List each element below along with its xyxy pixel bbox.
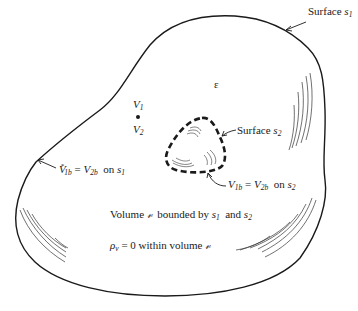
label-boundary-s2: V1b = V2b on s2 [228, 178, 295, 194]
permittivity-symbol: ε [214, 78, 219, 90]
label-surface-sub: 1 [349, 10, 353, 19]
label-surface-s1: Surface s1 [308, 5, 352, 21]
label-volume-statement: Volume 𝓋 bounded by s1 and s2 [110, 208, 252, 224]
charge-vol-symbol: 𝓋 [205, 239, 210, 251]
label-surface2-sub: 2 [278, 129, 282, 138]
vol-s2-sub: 2 [248, 213, 252, 222]
bs2-eq: = [242, 178, 254, 190]
bs1-rhs-sub: 2b [90, 168, 98, 177]
bs1-lhs-sub: 1b [64, 168, 72, 177]
bs2-lhs-var: V [228, 178, 235, 190]
bs1-surf-sub: 1 [121, 168, 125, 177]
label-surface2-word: Surface [237, 124, 271, 136]
vol-and: and [220, 208, 244, 220]
vol-word: Volume [110, 208, 147, 220]
v1-sub: 1 [140, 103, 144, 112]
v2-var: V [133, 123, 140, 135]
vol-middle: bounded by [152, 208, 212, 220]
label-v1: V1 [133, 98, 143, 114]
bs2-surf-sub: 2 [292, 183, 296, 192]
diagram-canvas [0, 0, 358, 311]
bs2-on: on [268, 178, 287, 190]
label-surface-word: Surface [308, 5, 342, 17]
bs1-eq: = [72, 163, 84, 175]
bs1-on: on [98, 163, 117, 175]
inner-shading-hatch [172, 127, 216, 167]
label-surface-s2: Surface s2 [237, 124, 281, 140]
label-charge-statement: ρv = 0 within volume 𝓋 [110, 239, 210, 255]
bs2-rhs-var: V [254, 178, 261, 190]
label-boundary-s1: V*1b = V2b on s1 [59, 160, 125, 179]
charge-rest: = 0 within volume [119, 239, 206, 251]
point-dot [136, 115, 140, 119]
v1-var: V [133, 98, 140, 110]
v2-sub: 2 [140, 128, 144, 137]
label-v2: V2 [133, 123, 143, 139]
epsilon-text: ε [214, 78, 219, 90]
